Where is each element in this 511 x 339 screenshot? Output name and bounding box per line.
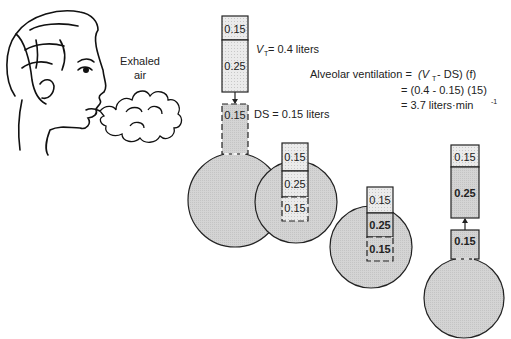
alveolar-ventilation-equation: Alveolar ventilation = (V T - DS) (f) = … — [310, 68, 497, 111]
arrow-down-icon — [232, 99, 238, 104]
equation-line3-sup: -1 — [491, 98, 497, 105]
stage4-middle-value: 0.25 — [454, 187, 475, 199]
diagram-canvas: Exhaled air 0.15 0.25 0.15 V T = 0.4 lit… — [0, 0, 511, 339]
stage3-top-value: 0.15 — [369, 194, 390, 206]
stage3-middle-value: 0.25 — [369, 219, 390, 231]
equation-line3: = 3.7 liters·min — [401, 99, 473, 111]
stage4-bottom-value: 0.15 — [454, 235, 475, 247]
stage2-middle-value: 0.25 — [284, 178, 305, 190]
equation-lhs: Alveolar ventilation = — [310, 68, 412, 80]
vt-value-label: = 0.4 liters — [268, 43, 320, 55]
stage-2: 0.15 0.25 0.15 — [255, 143, 337, 243]
stage3-bottom-value: 0.15 — [369, 243, 390, 255]
arrow-up-icon — [462, 218, 468, 223]
stage-4: 0.15 0.25 0.15 — [424, 145, 504, 338]
dead-space-label: DS = 0.15 liters — [254, 108, 330, 120]
alveolar-ventilation-diagram: Exhaled air 0.15 0.25 0.15 V T = 0.4 lit… — [0, 0, 511, 339]
stage2-bottom-value: 0.15 — [284, 202, 305, 214]
stage2-top-value: 0.15 — [284, 151, 305, 163]
exhaled-air-label-line2: air — [134, 69, 147, 81]
stage-3: 0.15 0.25 0.15 — [330, 187, 412, 288]
stage4-top-value: 0.15 — [454, 151, 475, 163]
exhaled-air-cloud — [100, 91, 181, 142]
exhaled-air-label-line1: Exhaled — [120, 55, 160, 67]
stage1-bottom-value: 0.15 — [224, 109, 245, 121]
stage1-top-value: 0.15 — [224, 23, 245, 35]
alveolus-4 — [424, 258, 504, 338]
equation-line2: = (0.4 - 0.15) (15) — [401, 84, 487, 96]
person-head-illustration — [7, 11, 106, 155]
equation-line1-b: - DS) (f) — [437, 68, 476, 80]
equation-line1-a: (V — [418, 68, 431, 80]
stage1-middle-value: 0.25 — [224, 60, 245, 72]
